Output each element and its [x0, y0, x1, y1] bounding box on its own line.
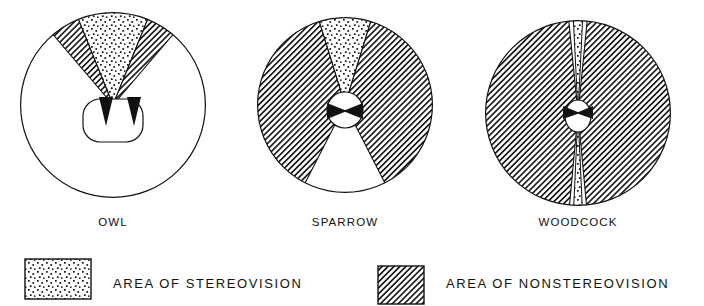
legend-label-stereovision: AREA OF STEREOVISION [113, 276, 302, 291]
legend-swatch-stereovision [25, 259, 91, 299]
owl-label: OWL [98, 216, 128, 228]
legend-swatch-nonstereovision [378, 266, 424, 304]
bird-vision-field-figure: OWL SPARROW [0, 0, 704, 306]
woodcock-label: WOODCOCK [538, 216, 617, 228]
legend-label-nonstereovision: AREA OF NONSTEREOVISION [446, 276, 669, 291]
sparrow-label: SPARROW [312, 216, 378, 228]
